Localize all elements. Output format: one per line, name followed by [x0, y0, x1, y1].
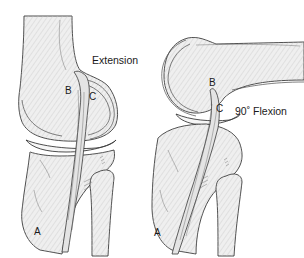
- knee-diagram: A B C Extension: [0, 0, 304, 258]
- label-c-extension: C: [89, 91, 96, 102]
- label-c-flexion: C: [216, 103, 223, 114]
- femur-extension: [19, 16, 118, 141]
- label-a-flexion: A: [154, 227, 161, 238]
- meniscus-extension: [26, 140, 116, 152]
- extension-title: Extension: [92, 54, 138, 66]
- flexion-panel: A B C 90˚ Flexion: [152, 37, 304, 256]
- label-b-extension: B: [65, 85, 72, 96]
- flexion-title: 90˚ Flexion: [235, 105, 287, 117]
- label-a-extension: A: [34, 226, 41, 237]
- label-b-flexion: B: [209, 77, 216, 88]
- meniscus-flexion: [176, 114, 240, 125]
- extension-panel: A B C Extension: [19, 16, 139, 256]
